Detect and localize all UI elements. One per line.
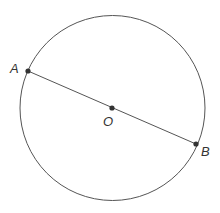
circle-diagram: A O B xyxy=(0,0,220,213)
point-b-dot xyxy=(193,141,198,146)
point-o-dot xyxy=(109,105,114,110)
point-a-dot xyxy=(25,68,30,73)
label-o: O xyxy=(103,114,113,129)
label-a: A xyxy=(9,61,19,76)
label-b: B xyxy=(201,144,210,159)
